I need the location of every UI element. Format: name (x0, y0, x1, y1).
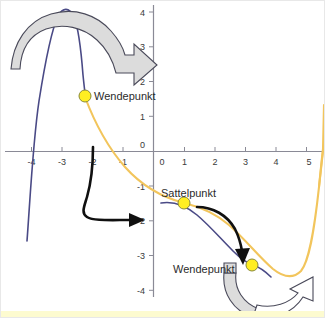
y-tick-label-0: 4 (140, 8, 145, 18)
x-tick-label-8: 4 (273, 157, 278, 167)
x-tick-label-9: 5 (306, 157, 311, 167)
black-arrow-left (84, 147, 145, 227)
annotation-wendepunkt-1[interactable]: Wendepunkt (79, 90, 156, 102)
y-tick-label-4: 0 (140, 140, 145, 150)
axes-group (5, 5, 323, 297)
wendepunkt-1-dot[interactable] (79, 90, 91, 102)
y-tick-label-8: -4 (137, 286, 145, 296)
bottom-color-band (1, 311, 325, 317)
black-arrow-right (197, 207, 250, 265)
y-tick-label-3: 1 (140, 112, 145, 122)
derivative-curve-blue-left (27, 9, 86, 241)
top-curved-arrow (11, 11, 157, 85)
sattelpunkt-label: Sattelpunkt (161, 187, 216, 199)
math-figure: -4 -3 -2 -1 0 1 2 3 4 5 4 3 2 1 0 (0, 0, 325, 318)
x-tick-label-4: 0 (159, 157, 164, 167)
wendepunkt-2-label: Wendepunkt (173, 263, 235, 275)
black-arrow-right-path (197, 207, 242, 251)
annotation-sattelpunkt[interactable]: Sattelpunkt (161, 187, 216, 209)
x-tick-label-0: -4 (27, 157, 35, 167)
top-arrow-shape (11, 11, 157, 85)
x-tick-label-7: 3 (243, 157, 248, 167)
function-curve-orange-tail (319, 105, 324, 187)
y-tick-label-7: -3 (137, 251, 145, 261)
plot-svg: -4 -3 -2 -1 0 1 2 3 4 5 4 3 2 1 0 (1, 1, 325, 318)
x-axis-tick-labels: -4 -3 -2 -1 0 1 2 3 4 5 (27, 157, 311, 167)
x-tick-label-6: 2 (212, 157, 217, 167)
x-tick-label-5: 1 (182, 157, 187, 167)
wendepunkt-2-dot[interactable] (246, 259, 258, 271)
wendepunkt-1-label: Wendepunkt (94, 90, 156, 102)
x-tick-label-1: -3 (58, 157, 66, 167)
